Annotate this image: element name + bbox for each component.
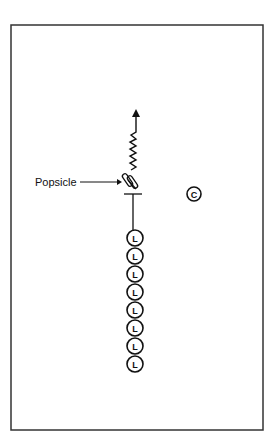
dribble-path-icon [130, 113, 136, 170]
start-marker-icon [124, 194, 142, 230]
player-letter: L [132, 342, 138, 352]
annotation-arrow-icon [80, 179, 122, 185]
player-marker: L [127, 266, 143, 282]
coach-letter: C [191, 190, 198, 200]
player-marker: L [127, 356, 143, 372]
player-marker: L [127, 302, 143, 318]
player-letter: L [132, 270, 138, 280]
player-line: L L L L L L L L [127, 230, 143, 372]
player-marker: L [127, 248, 143, 264]
player-marker: L [127, 320, 143, 336]
popsicle-label: Popsicle [35, 176, 77, 188]
player-letter: L [132, 324, 138, 334]
player-letter: L [132, 234, 138, 244]
player-marker: L [127, 284, 143, 300]
popsicle-marker-icon [121, 173, 138, 189]
player-letter: L [132, 288, 138, 298]
player-marker: L [127, 338, 143, 354]
player-letter: L [132, 306, 138, 316]
player-letter: L [132, 360, 138, 370]
player-letter: L [132, 252, 138, 262]
coach-marker: C [187, 187, 201, 201]
drill-diagram: Popsicle C L L L L L L [0, 0, 277, 448]
player-marker: L [127, 230, 143, 246]
